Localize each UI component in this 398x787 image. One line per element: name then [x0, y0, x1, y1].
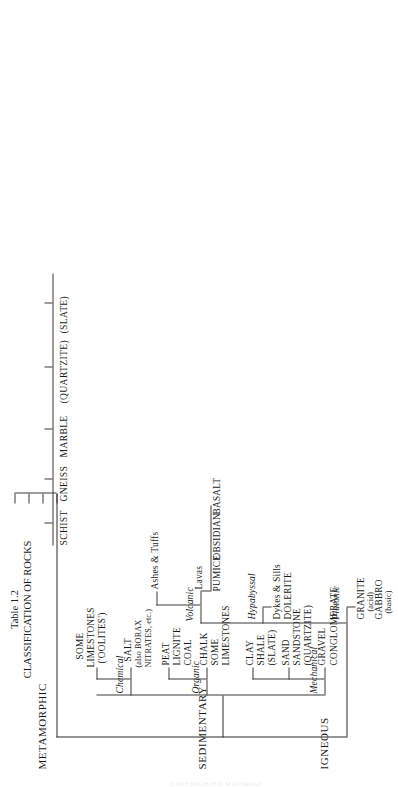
- metamorphic-stem-1: [44, 522, 52, 523]
- branch-some-limestones-chemical: [96, 667, 97, 679]
- metamorphic-stem-4: [44, 366, 52, 367]
- subgroup-label-ashes-tuffs: Ashes & Tuffs: [149, 531, 159, 589]
- entry-oolites: ('OOLITES'): [97, 612, 107, 663]
- entry-coal: COAL: [183, 639, 193, 665]
- branch-mechanical: [324, 679, 325, 695]
- entry-obsidian: OBSIDIAN: [212, 513, 222, 559]
- entry-gabbro-note: (basic): [384, 590, 393, 613]
- entry-sand: SAND: [281, 639, 291, 665]
- class-label-metamorphic: METAMORPHIC: [36, 683, 48, 769]
- entry-some-limestones-organic-2: LIMESTONES: [221, 605, 231, 665]
- branch-sand: [288, 667, 289, 679]
- entry-salt-note-1: (also BORAX: [134, 619, 143, 667]
- entry-marble: MARBLE: [58, 415, 68, 457]
- branch-peat: [168, 667, 169, 679]
- hypabyssal-stem: [262, 606, 271, 607]
- branch-ashes-tuffs: [156, 591, 157, 605]
- metamorphic-stem-gneiss: [42, 493, 43, 503]
- entry-gravel: GRAVEL: [317, 627, 327, 665]
- entry-quartzite-metamorphic: (QUARTZITE): [58, 340, 68, 403]
- metamorphic-baseline: [52, 273, 53, 545]
- entry-clay: CLAY: [245, 640, 255, 665]
- branch-clay: [252, 667, 253, 679]
- metamorphic-stem-quartzite: [14, 493, 15, 503]
- plutonic-stem: [346, 606, 355, 607]
- entry-some-limestones-chemical-1: SOME: [75, 632, 85, 659]
- entry-pumice: PUMICE: [212, 554, 222, 591]
- subgroup-label-lavas: Lavas: [193, 565, 203, 589]
- branch-hypabyssal: [262, 607, 263, 623]
- entry-lignite: LIGNITE: [172, 627, 182, 665]
- table-title: CLASSIFICATION OF ROCKS: [21, 509, 34, 709]
- branch-volcanic: [200, 605, 201, 623]
- branch-salt: [130, 667, 131, 679]
- lavas-stem: [200, 590, 210, 591]
- entry-shale: SHALE: [256, 634, 266, 665]
- metamorphic-stem-2: [44, 478, 52, 479]
- branch-igneous: [346, 623, 347, 737]
- class-label-igneous: IGNEOUS: [318, 717, 330, 769]
- entry-salt: SALT: [123, 638, 133, 661]
- branch-sedimentary: [222, 695, 223, 737]
- branch-chalk: [206, 667, 207, 679]
- table-number: Table 1.2: [8, 509, 21, 709]
- metamorphic-rule: [14, 492, 56, 493]
- entry-gneiss: GNEISS: [58, 465, 68, 501]
- entry-granite: GRANITE: [356, 576, 366, 619]
- metamorphic-stem-marble: [28, 493, 29, 503]
- group-label-hypabyssal: Hypabyssal: [246, 573, 256, 619]
- branch-lavas: [200, 591, 201, 605]
- entry-quartzite-sedimentary: (QUARTZITE): [303, 604, 313, 665]
- entry-slate-sedimentary: (SLATE): [267, 629, 277, 665]
- branch-gravel: [324, 667, 325, 679]
- branch-organic: [206, 679, 207, 695]
- volcanic-subtrunk: [156, 604, 200, 605]
- entry-schist: SCHIST: [58, 510, 68, 545]
- entry-conglomerate: CONGLOMERATE: [329, 586, 339, 665]
- entry-peat: PEAT: [161, 642, 171, 665]
- branch-chemical: [130, 679, 131, 695]
- entry-salt-note-2: NITRATES, etc.): [144, 608, 153, 667]
- metamorphic-stem-3: [44, 428, 52, 429]
- entry-some-limestones-chemical-2: LIMESTONES: [86, 607, 96, 667]
- entry-sandstone: SANDSTONE: [292, 608, 302, 665]
- organic-subtrunk: [168, 678, 206, 679]
- entry-some-limestones-organic-1: SOME: [210, 638, 220, 665]
- entry-dykes-sills: Dykes & Sills: [272, 564, 282, 619]
- entry-gabbro: GABBRO: [374, 579, 384, 619]
- entry-basalt: BASALT: [212, 477, 222, 514]
- chemical-subtrunk: [96, 678, 130, 679]
- class-label-sedimentary: SEDIMENTARY: [196, 686, 208, 769]
- entry-slate-metamorphic: (SLATE): [58, 295, 68, 333]
- page-title: Table 1.2 CLASSIFICATION OF ROCKS: [8, 509, 34, 709]
- branch-plutonic: [346, 607, 347, 623]
- metamorphic-stem-5: [44, 302, 52, 303]
- entry-chalk: CHALK: [199, 632, 209, 665]
- scan-header-artifact: COPYRIGHTED MATERIAL: [170, 779, 398, 787]
